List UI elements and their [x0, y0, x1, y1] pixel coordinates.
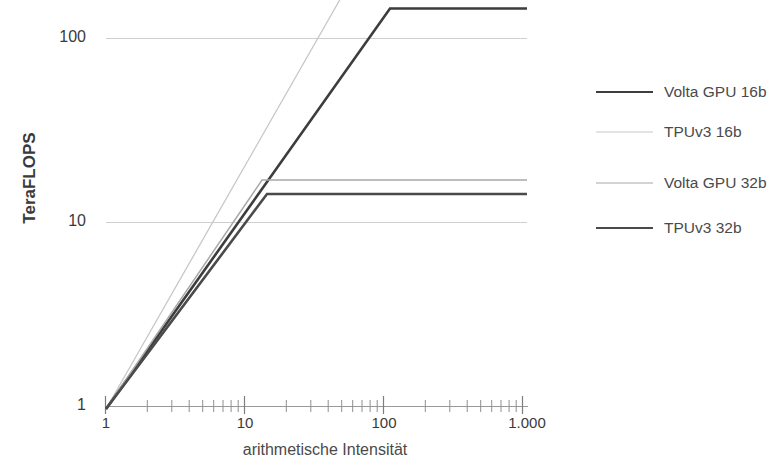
legend-label-tpuv3-32b: TPUv3 32b [664, 219, 742, 237]
x-tick-label-100: 100 [344, 414, 424, 431]
x-axis-title: arithmetische Intensität [145, 441, 505, 459]
legend-label-volta-gpu-32b: Volta GPU 32b [664, 174, 767, 192]
legend-label-volta-gpu-16b: Volta GPU 16b [664, 83, 767, 101]
series-line-tpuv3-32b [106, 194, 527, 409]
legend-swatch-tpuv3-32b [596, 222, 653, 234]
legend-label-tpuv3-16b: TPUv3 16b [664, 123, 742, 141]
legend-swatch-tpuv3-16b [596, 126, 653, 138]
legend-item-volta-gpu-32b: Volta GPU 32b [596, 172, 767, 194]
y-tick-label-1: 1 [22, 396, 86, 414]
series-line-volta-gpu-16b [106, 9, 527, 410]
series-line-tpuv3-16b [106, 0, 527, 409]
y-tick-label-10: 10 [22, 212, 86, 230]
legend-swatch-volta-gpu-16b [596, 86, 653, 98]
x-axis-major-ticks [106, 396, 523, 414]
x-tick-label-1000: 1.000 [487, 414, 567, 431]
series-line-volta-gpu-32b [106, 180, 527, 409]
y-tick-label-100: 100 [22, 28, 86, 46]
x-tick-label-1: 1 [66, 414, 146, 431]
legend-item-tpuv3-32b: TPUv3 32b [596, 217, 742, 239]
legend-swatch-volta-gpu-32b [596, 177, 653, 189]
roofline-chart-figure: TeraFLOPS 100 10 1 1 10 100 1.000 arithm… [0, 0, 769, 469]
legend-item-volta-gpu-16b: Volta GPU 16b [596, 81, 767, 103]
legend-item-tpuv3-16b: TPUv3 16b [596, 121, 742, 143]
x-tick-label-10: 10 [205, 414, 285, 431]
